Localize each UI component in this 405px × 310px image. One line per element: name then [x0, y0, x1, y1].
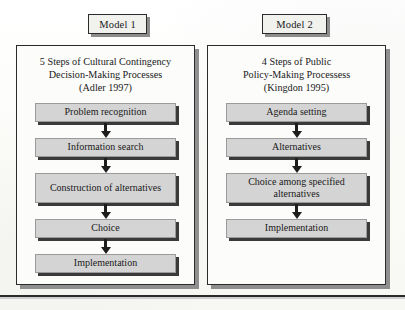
step-box: Problem recognition — [35, 103, 176, 122]
step-box: Agenda setting — [226, 103, 367, 122]
model-1-heading: 5 Steps of Cultural Contingency Decision… — [25, 55, 186, 95]
down-arrow-icon — [226, 157, 367, 173]
down-arrow-icon — [226, 203, 367, 219]
step-label: Problem recognition — [65, 106, 147, 118]
model-2-tab-label: Model 2 — [276, 19, 313, 30]
model-1-tab: Model 1 — [88, 14, 147, 34]
model-2-panel: 4 Steps of Public Policy-Making Processe… — [207, 45, 386, 285]
model-1-tab-label: Model 1 — [99, 19, 136, 30]
step-label: Choice among specified alternatives — [231, 176, 362, 201]
model-1-step-chain: Problem recognition Information search C… — [35, 103, 176, 273]
step-box: Information search — [35, 138, 176, 157]
step-label: Implementation — [74, 257, 137, 269]
step-box: Implementation — [226, 219, 367, 238]
down-arrow-icon — [35, 122, 176, 138]
step-box: Choice among specified alternatives — [226, 173, 367, 203]
down-arrow-icon — [35, 238, 176, 254]
step-box: Implementation — [35, 254, 176, 273]
model-1-panel: 5 Steps of Cultural Contingency Decision… — [16, 45, 195, 285]
model-2-heading-line-1: 4 Steps of Public — [216, 55, 377, 68]
model-2-heading-line-2: Policy-Making Processess — [216, 68, 377, 81]
down-arrow-icon — [35, 203, 176, 219]
down-arrow-icon — [35, 157, 176, 173]
model-2-tab: Model 2 — [262, 14, 327, 34]
two-model-comparison-figure: Model 1 Model 2 5 Steps of Cultural Cont… — [0, 0, 405, 310]
model-1-heading-line-1: 5 Steps of Cultural Contingency — [25, 55, 186, 68]
step-label: Agenda setting — [266, 106, 326, 118]
model-1-heading-line-2: Decision-Making Processes — [25, 68, 186, 81]
step-label: Information search — [68, 141, 144, 153]
step-box: Construction of alternatives — [35, 173, 176, 203]
model-1-heading-line-3: (Adler 1997) — [25, 81, 186, 94]
step-box: Choice — [35, 219, 176, 238]
step-label: Alternatives — [272, 141, 321, 153]
step-label: Choice — [91, 222, 119, 234]
model-2-step-chain: Agenda setting Alternatives Choice among… — [226, 103, 367, 238]
model-2-heading-line-3: (Kingdon 1995) — [216, 81, 377, 94]
down-arrow-icon — [226, 122, 367, 138]
step-label: Construction of alternatives — [50, 182, 161, 194]
step-box: Alternatives — [226, 138, 367, 157]
model-2-heading: 4 Steps of Public Policy-Making Processe… — [216, 55, 377, 95]
page-bottom-rule — [0, 295, 405, 297]
step-label: Implementation — [265, 222, 328, 234]
